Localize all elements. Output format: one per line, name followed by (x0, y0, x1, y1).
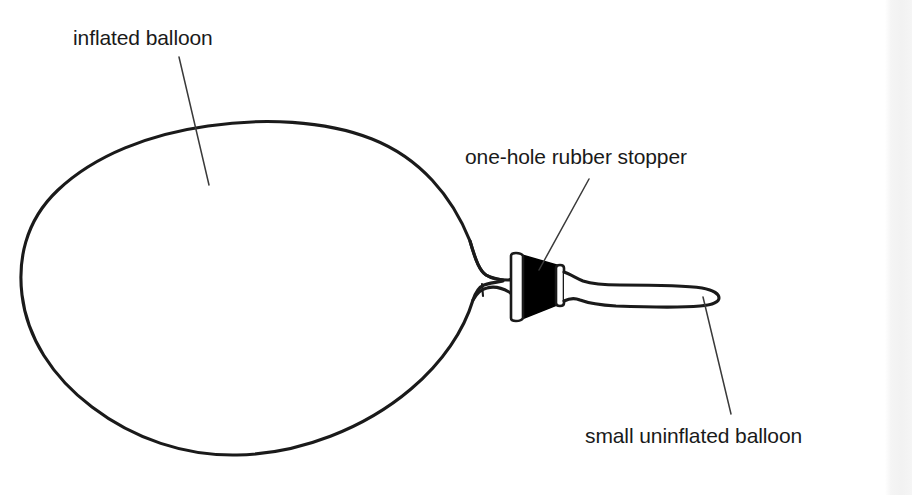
leader-line-small-balloon (703, 297, 731, 414)
label-small-uninflated-balloon: small uninflated balloon (585, 425, 802, 446)
label-one-hole-rubber-stopper: one-hole rubber stopper (465, 146, 687, 167)
balloon-stopper-illustration (0, 0, 912, 495)
small-uninflated-balloon-outline (564, 272, 719, 307)
inflated-balloon-outline (21, 122, 503, 455)
rubber-stopper-body (522, 255, 557, 319)
diagram-canvas: inflated balloon one-hole rubber stopper… (0, 0, 912, 495)
stopper-left-flange (511, 253, 523, 321)
leader-line-rubber-stopper (539, 179, 589, 270)
label-inflated-balloon: inflated balloon (73, 27, 213, 48)
neck-crease-mark (482, 284, 483, 296)
